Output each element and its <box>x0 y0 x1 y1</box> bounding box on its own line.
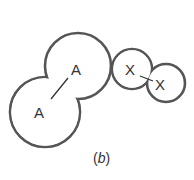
atom-a-lower-fill <box>11 78 78 145</box>
molecule-x-x: X X <box>112 49 185 102</box>
atom-label-x-left: X <box>125 61 135 78</box>
atom-x-right-outline <box>147 64 185 102</box>
molecule-a-a: A A <box>10 33 111 147</box>
figure-caption: (b) <box>93 150 110 166</box>
molecule-diagram: A A X X (b) <box>0 0 194 180</box>
atom-label-a-lower: A <box>34 104 44 121</box>
atom-label-a-upper: A <box>71 61 81 78</box>
atom-label-x-right: X <box>155 76 165 93</box>
